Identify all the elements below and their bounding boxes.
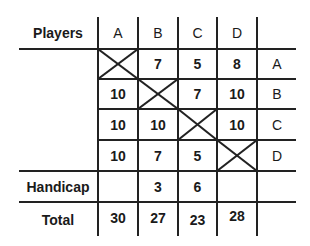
diagonal-cross-icon xyxy=(138,79,178,109)
score-cell: 10 xyxy=(99,80,137,108)
score-cell: 10 xyxy=(218,110,256,139)
total-cell: 27 xyxy=(139,203,177,233)
column-header: A xyxy=(99,17,137,48)
score-cell: 10 xyxy=(99,141,137,170)
score-cell: 5 xyxy=(179,50,216,78)
diagonal-cross-icon xyxy=(217,140,257,171)
column-header: B xyxy=(139,17,177,48)
handicap-cell: 6 xyxy=(179,172,216,201)
score-cell: 7 xyxy=(139,141,177,170)
score-cell: 10 xyxy=(139,110,177,139)
diagonal-cross-icon xyxy=(178,109,217,140)
row-label: A xyxy=(258,50,296,78)
row-label: D xyxy=(258,141,296,170)
total-cell: 28 xyxy=(218,201,256,231)
score-cell: 8 xyxy=(218,50,256,78)
diagonal-cross-icon xyxy=(98,49,138,79)
row-label: C xyxy=(258,110,296,139)
total-label: Total xyxy=(19,203,97,236)
handicap-cell xyxy=(218,172,256,201)
total-cell: 30 xyxy=(99,203,137,233)
score-cell: 10 xyxy=(218,80,256,108)
handicap-cell xyxy=(99,172,137,201)
row-label: B xyxy=(258,80,296,108)
column-header: C xyxy=(179,17,216,48)
corner-label: Players xyxy=(19,17,97,48)
column-header: D xyxy=(218,17,256,48)
total-cell: 23 xyxy=(179,205,216,235)
score-cell: 7 xyxy=(179,80,216,108)
handicap-label: Handicap xyxy=(19,172,97,201)
handicap-cell: 3 xyxy=(139,172,177,201)
score-cell: 10 xyxy=(99,110,137,139)
score-cell: 7 xyxy=(139,50,177,78)
score-cell: 5 xyxy=(179,141,216,170)
